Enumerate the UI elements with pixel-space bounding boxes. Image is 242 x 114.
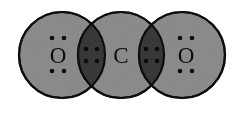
lone-pair-dot bbox=[62, 69, 67, 74]
shared-electron-dot bbox=[95, 59, 100, 64]
shared-electron-dot bbox=[144, 59, 149, 64]
lone-pair-dot bbox=[62, 36, 67, 41]
lone-pair-dot bbox=[50, 36, 55, 41]
symbol-oxygen-right: O bbox=[178, 43, 195, 68]
lone-pair-dot bbox=[178, 69, 183, 74]
diagram-canvas: O C O bbox=[0, 0, 242, 114]
lone-pair-dot bbox=[178, 36, 183, 41]
lone-pair-dot bbox=[190, 36, 195, 41]
symbol-carbon-center: C bbox=[113, 43, 128, 68]
lone-pair-dot bbox=[50, 69, 55, 74]
shared-electron-dot bbox=[95, 47, 100, 52]
shared-electron-dot bbox=[84, 59, 89, 64]
symbol-oxygen-left: O bbox=[50, 43, 67, 68]
shared-electron-dot bbox=[144, 47, 149, 52]
shared-electron-dot bbox=[155, 59, 160, 64]
shared-electron-dot bbox=[155, 47, 160, 52]
co2-lewis-diagram: O C O bbox=[0, 0, 242, 114]
lone-pair-dot bbox=[190, 69, 195, 74]
shared-electron-dot bbox=[84, 47, 89, 52]
